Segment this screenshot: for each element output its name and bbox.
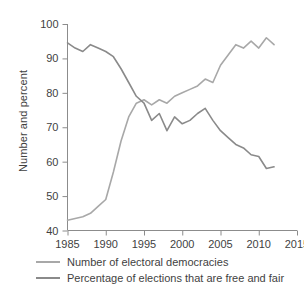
x-tick-label: 2005: [201, 239, 241, 250]
y-tick-label: 40: [31, 226, 59, 237]
y-tick-label: 60: [31, 157, 59, 168]
legend-item-democracies: Number of electoral democracies: [36, 254, 304, 270]
legend-swatch-free-and-fair: [36, 277, 60, 279]
x-tick-label: 2010: [239, 239, 279, 250]
y-tick-label: 100: [31, 19, 59, 30]
legend-label-democracies: Number of electoral democracies: [67, 256, 228, 268]
x-axis-ticks: [68, 231, 298, 236]
chart-legend: Number of electoral democracies Percenta…: [36, 254, 304, 286]
legend-label-free-and-fair: Percentage of elections that are free an…: [67, 272, 284, 284]
x-tick-label: 2015: [277, 239, 304, 250]
legend-swatch-democracies: [36, 261, 60, 263]
series-line-democracies: [68, 38, 275, 220]
y-tick-label: 90: [31, 53, 59, 64]
legend-item-free-and-fair: Percentage of elections that are free an…: [36, 270, 304, 286]
x-tick-label: 1985: [48, 239, 88, 250]
axis-lines: [68, 24, 298, 231]
y-tick-label: 50: [31, 191, 59, 202]
y-axis-ticks: [63, 25, 68, 232]
y-tick-label: 80: [31, 88, 59, 99]
data-series-layer: [68, 38, 275, 220]
x-tick-label: 1995: [124, 239, 164, 250]
x-tick-label: 2000: [162, 239, 202, 250]
x-tick-label: 1990: [86, 239, 126, 250]
y-tick-label: 70: [31, 122, 59, 133]
chart-container: Number and percent 405060708090100198519…: [0, 0, 304, 290]
series-line-free-and-fair: [68, 43, 275, 169]
